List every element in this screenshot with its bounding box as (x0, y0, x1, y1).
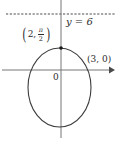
fraction-denominator: 2 (38, 36, 44, 43)
asymptote-label: y = 6 (66, 17, 93, 27)
paren-close: ) (46, 26, 50, 43)
x-intercept-label: (3, 0) (87, 55, 111, 64)
polar-radius-value: 2, (28, 30, 37, 39)
fraction-numerator: π (38, 27, 44, 34)
polar-graph-figure: y = 6 (3, 0) 0 ( 2, π 2 ) (0, 0, 120, 141)
polar-point-label: ( 2, π 2 ) (21, 26, 51, 43)
paren-open: ( (22, 26, 26, 43)
polar-angle-fraction: π 2 (38, 27, 44, 42)
origin-label: 0 (53, 73, 59, 82)
polar-point-marker (59, 46, 63, 50)
polar-curve (28, 48, 91, 127)
x-axis-arrow-icon (109, 67, 115, 74)
graph-canvas (0, 0, 120, 141)
